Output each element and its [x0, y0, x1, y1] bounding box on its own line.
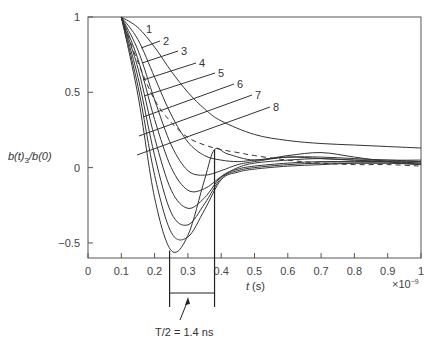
curve-label-8: 8: [273, 101, 279, 113]
curve-label-6: 6: [237, 78, 243, 90]
x-tick-label: 1: [418, 265, 424, 277]
y-tick-label: 0: [74, 162, 80, 174]
x-tick-label: 0.9: [380, 265, 395, 277]
x-tick-label: 0.2: [147, 265, 162, 277]
curve-label-7: 7: [255, 89, 261, 101]
x-axis-label: t (s): [246, 280, 265, 292]
curves: [121, 17, 421, 252]
x-axis-ticks: 00.10.20.30.40.50.60.70.80.91: [85, 253, 424, 277]
x-tick-label: 0.1: [114, 265, 129, 277]
x-tick-label: 0.8: [347, 265, 362, 277]
chart: 00.10.20.30.40.50.60.70.80.91 −0.500.51 …: [0, 0, 435, 343]
annotation-text: T/2 = 1.4 ns: [155, 326, 214, 338]
x-tick-label: 0.3: [180, 265, 195, 277]
curve-label-5: 5: [218, 67, 224, 79]
plot-frame: [88, 17, 421, 258]
curve-6: [121, 17, 421, 225]
curve-label-1: 1: [146, 23, 152, 35]
x-multiplier: ×10−9: [392, 278, 419, 290]
x-tick-label: 0: [85, 265, 91, 277]
curve-label-3: 3: [181, 45, 187, 57]
y-tick-label: −0.5: [58, 237, 80, 249]
x-tick-label: 0.4: [214, 265, 229, 277]
curve-8: [121, 17, 421, 252]
leader-line-4: [143, 63, 196, 80]
curve-label-4: 4: [199, 57, 205, 69]
x-tick-label: 0.7: [313, 265, 328, 277]
leader-line-7: [139, 95, 252, 136]
y-tick-label: 1: [74, 11, 80, 23]
x-tick-label: 0.5: [247, 265, 262, 277]
y-axis-label: b(t)3/b(0): [8, 150, 52, 165]
leader-line-8: [137, 107, 270, 155]
x-tick-label: 0.6: [280, 265, 295, 277]
leader-line-6: [143, 84, 234, 117]
curve-7: [121, 17, 421, 240]
leader-line-3: [142, 51, 178, 63]
y-tick-label: 0.5: [65, 86, 80, 98]
curve-label-2: 2: [163, 35, 169, 47]
